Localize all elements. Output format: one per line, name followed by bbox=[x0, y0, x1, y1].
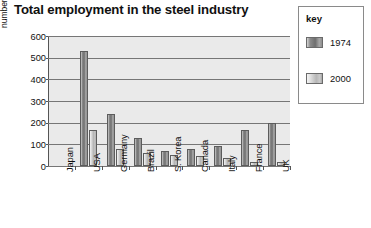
x-axis-tick-label: Italy bbox=[227, 155, 237, 172]
bar-group bbox=[264, 37, 291, 166]
bar-canada-1974 bbox=[187, 149, 195, 166]
bar-s-korea-1974 bbox=[161, 151, 169, 166]
x-axis-tick-label: Japan bbox=[65, 147, 75, 172]
y-axis-tick-label: 600 bbox=[30, 33, 46, 42]
x-axis-tick-label: S. Korea bbox=[173, 137, 183, 172]
x-axis-tick-labels: JapanUSAGermanyBrazilS. KoreaCanadaItaly… bbox=[48, 170, 290, 228]
y-axis-tick-label: 300 bbox=[30, 98, 46, 107]
y-axis-tick-labels: 0100200300400500600 bbox=[20, 37, 46, 167]
bar-group bbox=[76, 37, 103, 166]
bar-usa-1974 bbox=[80, 51, 88, 166]
y-axis-tick-label: 500 bbox=[30, 54, 46, 63]
y-axis-tick-label: 400 bbox=[30, 76, 46, 85]
legend: key 1974 2000 bbox=[298, 6, 364, 104]
legend-label-2000: 2000 bbox=[330, 73, 351, 84]
legend-title: key bbox=[306, 13, 322, 24]
bar-germany-1974 bbox=[107, 114, 115, 166]
x-axis-tick-label: Canada bbox=[200, 140, 210, 172]
chart-figure: Total employment in the steel industry n… bbox=[0, 0, 371, 228]
x-axis-tick-label: Brazil bbox=[146, 149, 156, 172]
legend-swatch-1974-icon bbox=[306, 37, 323, 48]
bar-uk-1974 bbox=[268, 123, 276, 166]
bar-group bbox=[130, 37, 157, 166]
y-axis-tick-label: 0 bbox=[41, 163, 46, 172]
x-axis-tick-label: France bbox=[254, 144, 264, 172]
legend-label-1974: 1974 bbox=[330, 37, 351, 48]
bar-italy-1974 bbox=[214, 146, 222, 166]
y-axis-tick-label: 100 bbox=[30, 141, 46, 150]
bar-brazil-1974 bbox=[134, 138, 142, 166]
bar-group bbox=[210, 37, 237, 166]
x-axis-tick-label: UK bbox=[281, 159, 291, 172]
y-axis-title: number employed (thousands) bbox=[0, 0, 9, 36]
bar-france-1974 bbox=[241, 130, 249, 166]
y-axis-tick-label: 200 bbox=[30, 119, 46, 128]
chart-title: Total employment in the steel industry bbox=[14, 2, 248, 17]
x-axis-tick-label: Germany bbox=[119, 134, 129, 172]
legend-swatch-2000-icon bbox=[306, 73, 323, 84]
x-axis-tick-label: USA bbox=[92, 153, 102, 172]
